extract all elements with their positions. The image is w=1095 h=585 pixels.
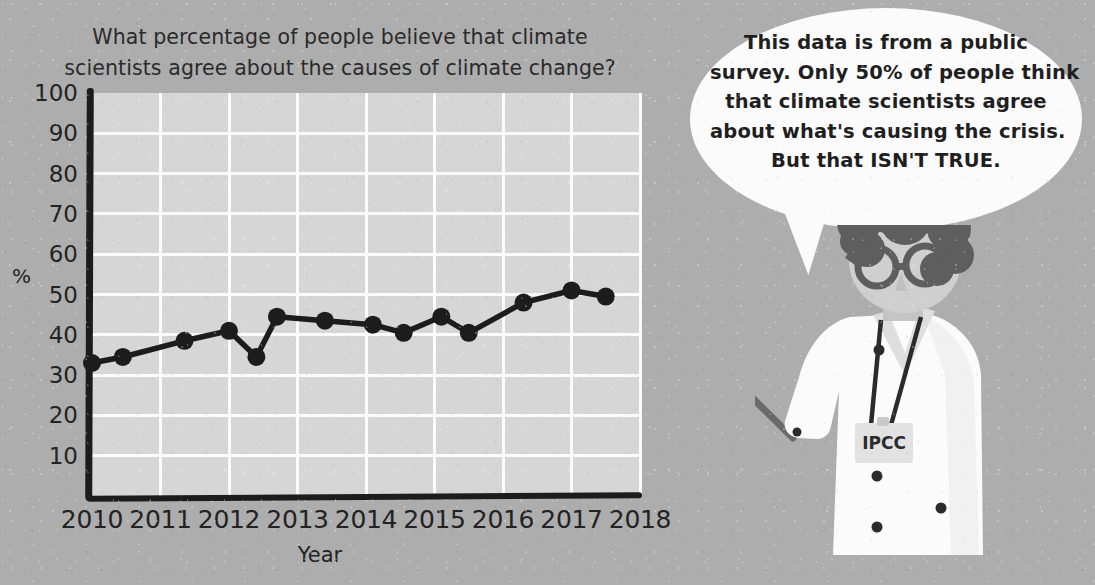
bubble-line-5: But that ISN'T TRUE. (710, 146, 1062, 176)
bubble-line-2: survey. Only 50% of people think (710, 58, 1062, 88)
data-point (220, 322, 238, 340)
data-point (83, 354, 101, 372)
data-point (460, 324, 478, 342)
badge-label: IPCC (862, 433, 906, 453)
bubble-line-4: about what's causing the crisis. (710, 117, 1062, 147)
series-markers (83, 281, 615, 372)
data-point (563, 281, 581, 299)
bubble-line-1: This data is from a public (710, 28, 1062, 58)
scientist-figure: IPCC (755, 225, 1095, 585)
bubble-line-3: that climate scientists agree (710, 87, 1062, 117)
data-series (0, 0, 700, 585)
illustration-canvas: What percentage of people believe that c… (0, 0, 1095, 585)
data-point (515, 294, 533, 312)
coat-button (872, 471, 883, 482)
badge-clip-icon (877, 417, 889, 426)
line-chart: What percentage of people believe that c… (0, 0, 700, 585)
coat-button (874, 345, 885, 356)
speech-bubble-text: This data is from a public survey. Only … (710, 28, 1062, 176)
data-point (268, 308, 286, 326)
data-point (247, 348, 265, 366)
cuff-button (793, 428, 802, 437)
coat-button (872, 522, 883, 533)
data-point (395, 324, 413, 342)
data-point (114, 348, 132, 366)
data-point (597, 288, 615, 306)
coat-button (936, 503, 947, 514)
data-point (432, 308, 450, 326)
data-point (316, 312, 334, 330)
data-point (364, 316, 382, 334)
data-point (175, 332, 193, 350)
